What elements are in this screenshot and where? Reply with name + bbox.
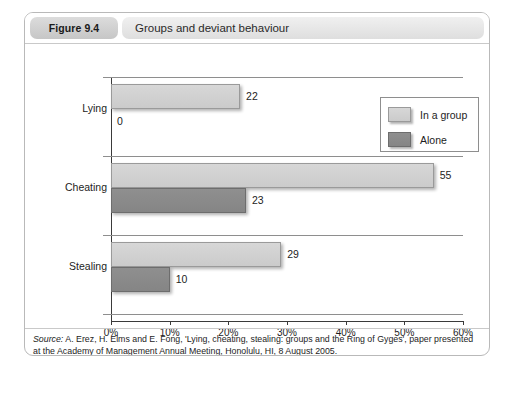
category-label: Stealing: [29, 260, 107, 272]
bar-stealing-alone: [111, 267, 170, 292]
bar-lying-in-a-group: [111, 84, 240, 109]
x-axis-tick: [228, 321, 229, 325]
category-separator: [103, 235, 463, 236]
x-axis-tick: [287, 321, 288, 325]
figure-container: Figure 9.4 Groups and deviant behaviour …: [24, 12, 490, 356]
bar-value-label: 10: [176, 273, 188, 285]
bar-value-label: 23: [252, 194, 264, 206]
bar-stealing-in-a-group: [111, 242, 281, 267]
bar-value-label: 0: [117, 115, 123, 127]
x-axis-tick: [170, 321, 171, 325]
x-axis-tick: [111, 321, 112, 325]
x-axis-tick: [463, 321, 464, 325]
figure-title: Groups and deviant behaviour: [135, 17, 289, 39]
bar-cheating-alone: [111, 188, 246, 213]
category-separator: [103, 156, 463, 157]
legend-item-in-a-group[interactable]: In a group: [388, 107, 467, 122]
source-block: Source: A. Erez, H. Elms and E. Fong, 'L…: [25, 328, 489, 356]
legend-item-alone[interactable]: Alone: [388, 132, 447, 147]
category-separator: [103, 314, 463, 315]
bar-cheating-in-a-group: [111, 163, 434, 188]
legend-label: In a group: [420, 109, 467, 121]
category-separator: [103, 77, 463, 78]
legend-label: Alone: [420, 134, 447, 146]
source-text: Source: A. Erez, H. Elms and E. Fong, 'L…: [33, 334, 481, 356]
chart-legend: In a groupAlone: [380, 97, 479, 152]
category-label: Lying: [29, 102, 107, 114]
bar-value-label: 29: [287, 248, 299, 260]
figure-header: Figure 9.4 Groups and deviant behaviour: [25, 13, 489, 44]
source-body: A. Erez, H. Elms and E. Fong, 'Lying, ch…: [33, 334, 473, 356]
bar-value-label: 55: [440, 169, 452, 181]
source-label: Source:: [33, 334, 63, 344]
chart-area: 0%10%20%30%40%50%60%Lying220Cheating5523…: [25, 44, 489, 328]
legend-swatch-icon: [388, 107, 411, 122]
x-axis-tick: [404, 321, 405, 325]
x-axis-tick: [346, 321, 347, 325]
legend-swatch-icon: [388, 132, 411, 147]
category-label: Cheating: [29, 181, 107, 193]
bar-chart-plot: 0%10%20%30%40%50%60%Lying220Cheating5523…: [25, 44, 489, 328]
bar-value-label: 22: [246, 90, 258, 102]
figure-number-badge: Figure 9.4: [30, 17, 118, 39]
